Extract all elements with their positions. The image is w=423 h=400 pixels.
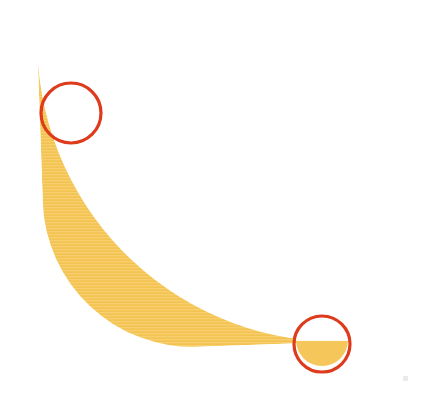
figure-root	[0, 0, 423, 400]
scan-speck	[403, 376, 408, 381]
honeycomb-figure-svg	[0, 0, 423, 400]
honeycomb-band-group	[0, 0, 423, 400]
honeycomb-band	[0, 0, 423, 400]
